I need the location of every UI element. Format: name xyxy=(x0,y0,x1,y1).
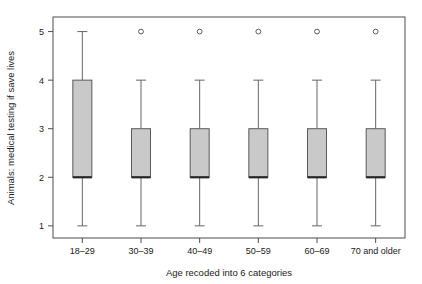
box-iqr xyxy=(366,129,385,178)
y-tick-label: 4 xyxy=(39,76,44,86)
x-tick-label: 30–39 xyxy=(128,246,153,256)
box-iqr xyxy=(190,129,209,178)
box-iqr xyxy=(132,129,151,178)
box-iqr xyxy=(249,129,268,178)
boxplot-figure: 12345 18–2930–3940–4950–5960–6970 and ol… xyxy=(0,0,422,284)
x-tick-label: 70 and older xyxy=(351,246,401,256)
x-tick-label: 18–29 xyxy=(70,246,95,256)
x-tick-label: 40–49 xyxy=(187,246,212,256)
y-tick-label: 2 xyxy=(39,173,44,183)
y-tick-label: 3 xyxy=(39,124,44,134)
y-tick-label: 5 xyxy=(39,27,44,37)
figure-background xyxy=(0,0,422,284)
x-tick-label: 60–69 xyxy=(304,246,329,256)
x-axis-title: Age recoded into 6 categories xyxy=(166,267,292,278)
box-iqr xyxy=(308,129,327,178)
x-tick-label: 50–59 xyxy=(246,246,271,256)
y-axis-title: Animals: medical testing if save lives xyxy=(5,51,16,205)
y-tick-label: 1 xyxy=(39,221,44,231)
box-iqr xyxy=(73,80,92,177)
